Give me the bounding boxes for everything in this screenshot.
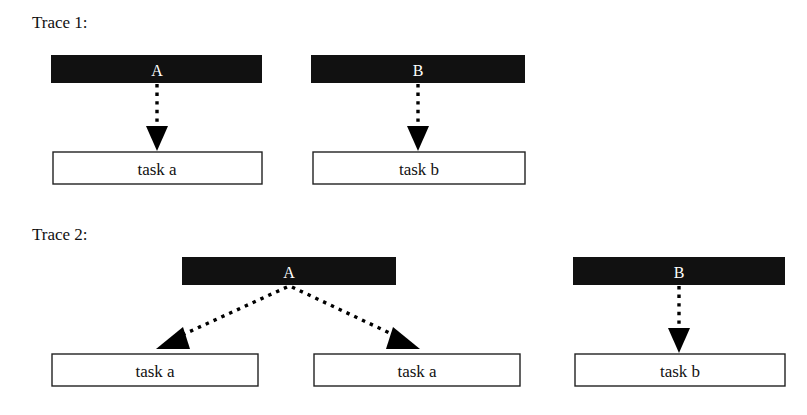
arrow-head-icon <box>407 126 429 151</box>
task-label-trace1-b: task b <box>399 160 439 179</box>
connector-trace2-b-to-task-b <box>668 286 690 353</box>
connector-line <box>292 287 396 336</box>
trace-label-1: Trace 1: <box>32 13 88 32</box>
task-label-trace2-a-left: task a <box>135 362 175 381</box>
connector-trace2-a-to-task-a-right <box>292 287 420 349</box>
trace-group-2: Trace 2: A B <box>32 225 785 386</box>
diagram-canvas: Trace 1: A B <box>0 0 807 415</box>
task-box-group-trace2-a-left: task a <box>52 354 258 386</box>
event-label-trace1-a: A <box>151 62 163 79</box>
connector-trace1-a-to-task-a <box>146 84 168 151</box>
connector-trace1-b-to-task-b <box>407 84 429 151</box>
trace-diagram: Trace 1: A B <box>0 0 807 415</box>
task-box-group-trace2-a-right: task a <box>314 354 520 386</box>
trace-label-2: Trace 2: <box>32 225 88 244</box>
task-label-trace1-a: task a <box>137 160 177 179</box>
event-label-trace2-b: B <box>674 264 685 281</box>
trace-group-1: Trace 1: A B <box>32 13 525 184</box>
event-label-trace1-b: B <box>413 62 424 79</box>
arrow-head-icon <box>156 327 190 349</box>
arrow-head-icon <box>386 327 420 349</box>
event-bar-group-trace1-b: B <box>311 55 525 83</box>
arrow-head-icon <box>146 126 168 151</box>
connector-line <box>180 287 287 336</box>
event-bar-group-trace2-b: B <box>573 257 785 285</box>
task-box-group-trace1-a: task a <box>53 152 262 184</box>
arrow-head-icon <box>668 328 690 353</box>
event-label-trace2-a: A <box>283 264 295 281</box>
task-label-trace2-b: task b <box>660 362 700 381</box>
task-box-group-trace1-b: task b <box>313 152 525 184</box>
task-label-trace2-a-right: task a <box>397 362 437 381</box>
event-bar-group-trace2-a: A <box>182 257 396 285</box>
task-box-group-trace2-b: task b <box>575 354 785 386</box>
event-bar-group-trace1-a: A <box>51 55 262 83</box>
connector-trace2-a-to-task-a-left <box>156 287 287 349</box>
